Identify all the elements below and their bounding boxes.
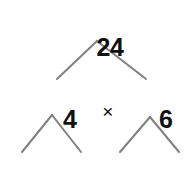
leaf-factor-4: 3 xyxy=(144,183,159,188)
node-level2-left-4: 4 xyxy=(35,82,77,157)
node-level2-right-6: 6 xyxy=(131,82,173,157)
node-root-24: 24 xyxy=(71,10,124,85)
factor-tree-diagram: 24 4 × 6 2×2×2×3 xyxy=(0,0,191,188)
leaf-factor-2: 2 xyxy=(89,183,104,188)
multiplication-sign-label: × xyxy=(102,101,113,122)
leaf-factor-1: 2 xyxy=(61,183,76,188)
node-level2-right-label: 6 xyxy=(159,105,173,133)
node-level3-row: 2×2×2×3 xyxy=(33,158,159,188)
node-level2-left-label: 4 xyxy=(63,105,77,133)
multiplication-sign-icon-level2: × xyxy=(85,86,114,137)
leaf-factor-3: 2 xyxy=(117,183,132,188)
node-root-label: 24 xyxy=(96,33,123,61)
